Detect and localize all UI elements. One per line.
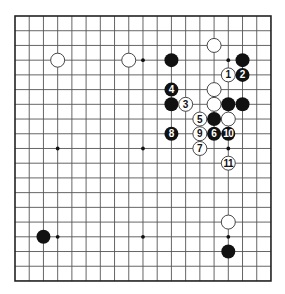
white-stone — [221, 112, 235, 126]
stone-circle — [221, 97, 235, 111]
black-stone — [36, 230, 50, 244]
stone-circle — [164, 97, 178, 111]
star-point — [226, 235, 230, 239]
black-stone — [236, 53, 250, 67]
stone-circle — [207, 112, 221, 126]
stone-circle — [221, 112, 235, 126]
move-number: 10 — [223, 128, 234, 139]
stone-circle — [207, 83, 221, 97]
white-stone — [207, 38, 221, 52]
move-number: 8 — [169, 128, 175, 139]
move-number: 3 — [183, 99, 189, 110]
star-point — [141, 58, 145, 62]
stone-circle — [221, 215, 235, 229]
white-stone — [207, 83, 221, 97]
black-stone-move-4: 4 — [164, 83, 178, 97]
move-number: 11 — [224, 158, 234, 169]
white-stone-move-11: 11 — [221, 156, 235, 170]
move-number: 5 — [197, 114, 203, 125]
star-point — [226, 58, 230, 62]
star-point — [141, 235, 145, 239]
stone-circle — [236, 53, 250, 67]
white-stone-move-5: 5 — [193, 112, 207, 126]
black-stone-move-2: 2 — [236, 68, 250, 82]
white-stone — [51, 53, 65, 67]
move-number: 6 — [211, 128, 217, 139]
black-stone — [236, 97, 250, 111]
stone-circle — [207, 97, 221, 111]
move-number: 4 — [169, 84, 175, 95]
go-board: 1243589610711 — [0, 0, 285, 294]
white-stone-move-3: 3 — [179, 97, 193, 111]
white-stone-move-1: 1 — [221, 68, 235, 82]
star-point — [226, 147, 230, 151]
white-stone — [122, 53, 136, 67]
stone-circle — [164, 53, 178, 67]
black-stone-move-6: 6 — [207, 127, 221, 141]
black-stone — [164, 97, 178, 111]
move-number: 7 — [197, 143, 203, 154]
black-stone — [207, 112, 221, 126]
white-stone — [221, 215, 235, 229]
white-stone-move-7: 7 — [193, 141, 207, 155]
black-stone-move-8: 8 — [164, 127, 178, 141]
star-point — [56, 235, 60, 239]
stone-circle — [221, 245, 235, 259]
white-stone — [207, 97, 221, 111]
move-number: 9 — [197, 128, 203, 139]
move-number: 2 — [240, 69, 246, 80]
black-stone-move-10: 10 — [221, 127, 235, 141]
stone-circle — [122, 53, 136, 67]
black-stone — [164, 53, 178, 67]
stone-circle — [236, 97, 250, 111]
stone-circle — [207, 38, 221, 52]
white-stone-move-9: 9 — [193, 127, 207, 141]
star-point — [56, 147, 60, 151]
stone-circle — [51, 53, 65, 67]
stone-circle — [36, 230, 50, 244]
star-point — [141, 147, 145, 151]
black-stone — [221, 97, 235, 111]
black-stone — [221, 245, 235, 259]
move-number: 1 — [226, 69, 232, 80]
